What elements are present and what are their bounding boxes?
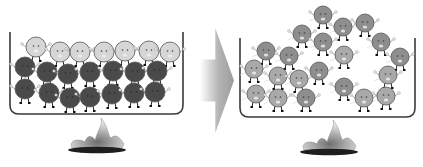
mouth-icon — [276, 100, 280, 103]
particle — [288, 25, 317, 48]
eye-icon — [286, 54, 288, 56]
particle-body — [15, 79, 35, 99]
eye-icon — [304, 32, 306, 34]
eye-icon — [367, 21, 369, 23]
eye-icon — [67, 96, 69, 98]
particle-body — [379, 66, 397, 84]
mouth-icon — [78, 54, 82, 57]
eye-icon — [263, 49, 265, 51]
mouth-icon — [252, 71, 256, 74]
particle — [119, 83, 150, 108]
mouth-icon — [363, 25, 367, 28]
particle — [98, 61, 129, 86]
eye-icon — [383, 40, 385, 42]
mouth-icon — [123, 53, 127, 56]
particle-body — [115, 41, 135, 61]
particle-body — [50, 42, 70, 62]
eye-icon — [378, 40, 380, 42]
eye-icon — [70, 72, 72, 74]
mouth-icon — [254, 96, 258, 99]
particle-body — [103, 61, 123, 81]
mouth-icon — [398, 59, 402, 62]
particle-body — [297, 89, 315, 107]
eye-icon — [256, 67, 258, 69]
particle-body — [372, 33, 390, 51]
particle-body — [139, 41, 159, 61]
mouth-icon — [34, 49, 38, 52]
mouth-icon — [386, 77, 390, 80]
particle — [330, 46, 359, 69]
mouth-icon — [304, 100, 308, 103]
particle-body — [356, 14, 374, 32]
eye-icon — [131, 91, 133, 93]
particle-body — [247, 85, 265, 103]
eye-icon — [127, 49, 129, 51]
before-heating-panel — [10, 32, 186, 153]
particle — [10, 79, 41, 104]
eye-icon — [146, 49, 148, 51]
eye-icon — [385, 73, 387, 75]
eye-icon — [340, 25, 342, 27]
eye-icon — [77, 50, 79, 52]
mouth-icon — [300, 36, 304, 39]
after-heating-panel — [240, 6, 415, 155]
eye-icon — [341, 53, 343, 55]
mouth-icon — [379, 44, 383, 47]
particle — [329, 18, 358, 41]
eye-icon — [51, 91, 53, 93]
particle — [367, 33, 396, 56]
particle-body — [70, 42, 90, 62]
particle-body — [314, 6, 332, 24]
eye-icon — [109, 92, 111, 94]
eye-icon — [388, 94, 390, 96]
particle-body — [147, 61, 167, 81]
mouth-icon — [297, 81, 301, 84]
eye-icon — [397, 55, 399, 57]
eye-icon — [280, 74, 282, 76]
particle-body — [80, 62, 100, 82]
mouth-icon — [341, 29, 345, 32]
eye-icon — [325, 13, 327, 15]
mouth-icon — [168, 54, 172, 57]
particle-body — [290, 70, 308, 88]
particle — [242, 85, 271, 108]
eye-icon — [253, 92, 255, 94]
mouth-icon — [362, 100, 366, 103]
eye-icon — [92, 70, 94, 72]
eye-icon — [390, 73, 392, 75]
particle-body — [145, 82, 165, 102]
particle-body — [58, 64, 78, 84]
particle-body — [15, 57, 35, 77]
particle — [309, 6, 338, 29]
eye-icon — [92, 95, 94, 97]
eye-icon — [167, 50, 169, 52]
heating-diagram — [0, 0, 423, 167]
mouth-icon — [321, 17, 325, 20]
eye-icon — [301, 77, 303, 79]
burner-base — [68, 147, 126, 153]
eye-icon — [87, 95, 89, 97]
particle — [351, 14, 380, 37]
eye-icon — [154, 69, 156, 71]
particle — [264, 67, 293, 90]
eye-icon — [296, 77, 298, 79]
eye-icon — [122, 49, 124, 51]
eye-icon — [65, 72, 67, 74]
eye-icon — [57, 50, 59, 52]
eye-icon — [101, 50, 103, 52]
particle-body — [377, 87, 395, 105]
eye-icon — [251, 67, 253, 69]
particle — [264, 89, 293, 112]
eye-icon — [27, 65, 29, 67]
mouth-icon — [264, 53, 268, 56]
mouth-icon — [342, 57, 346, 60]
mouth-icon — [317, 73, 321, 76]
eye-icon — [383, 94, 385, 96]
burner-flame — [300, 120, 358, 155]
eye-icon — [27, 87, 29, 89]
mouth-icon — [342, 89, 346, 92]
eye-icon — [157, 90, 159, 92]
eye-icon — [291, 54, 293, 56]
eye-icon — [22, 65, 24, 67]
eye-icon — [308, 96, 310, 98]
